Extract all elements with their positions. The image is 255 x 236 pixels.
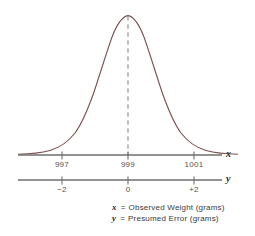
y-axis-symbol: y <box>226 173 230 184</box>
y-tick-label-minus2: −2 <box>42 185 82 194</box>
chart-legend: x=Observed Weight (grams) y=Presumed Err… <box>112 202 252 224</box>
legend-text-y: Presumed Error (grams) <box>128 214 219 223</box>
y-tick-label-zero: 0 <box>108 185 148 194</box>
legend-item-y: y=Presumed Error (grams) <box>112 213 252 224</box>
legend-symbol-x: x <box>112 202 117 212</box>
legend-equals-y: = <box>116 214 128 223</box>
x-axis-symbol: x <box>226 148 231 159</box>
legend-item-x: x=Observed Weight (grams) <box>112 202 252 213</box>
x-tick-label-999: 999 <box>108 160 148 169</box>
legend-equals-x: = <box>117 203 129 212</box>
x-tick-label-997: 997 <box>42 160 82 169</box>
x-tick-label-1001: 1001 <box>174 160 214 169</box>
chart-canvas <box>0 0 255 236</box>
y-tick-label-plus2: +2 <box>174 185 214 194</box>
legend-text-x: Observed Weight (grams) <box>129 203 225 212</box>
normal-distribution-figure: 997 999 1001 −2 0 +2 x y x=Observed Weig… <box>0 0 255 236</box>
